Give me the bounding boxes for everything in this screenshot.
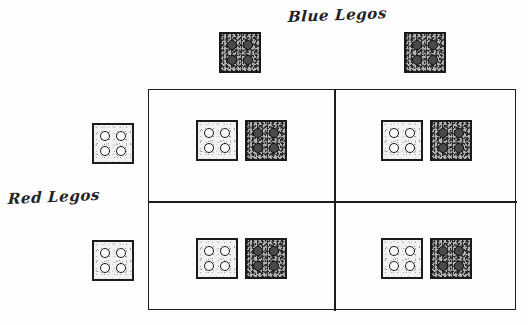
lego-stud xyxy=(438,128,448,138)
red-lego-brick xyxy=(92,123,134,164)
lego-stud xyxy=(116,263,126,273)
lego-stud xyxy=(100,146,110,156)
lego-stud xyxy=(204,246,214,256)
lego-stud xyxy=(243,40,253,50)
lego-stud xyxy=(227,40,237,50)
lego-stud xyxy=(405,261,415,271)
red-lego-brick xyxy=(381,120,423,161)
grid-cell-row1-col1 xyxy=(196,120,287,161)
lego-stud xyxy=(220,143,230,153)
lego-stud xyxy=(389,246,399,256)
lego-stud xyxy=(227,55,237,65)
red-lego-brick xyxy=(196,238,238,279)
lego-stud xyxy=(412,55,422,65)
lego-stud xyxy=(454,246,464,256)
blue-lego-brick xyxy=(245,238,287,279)
lego-stud xyxy=(454,143,464,153)
red-lego-brick xyxy=(196,120,238,161)
grid-cell-row2-col1 xyxy=(196,238,287,279)
lego-stud xyxy=(116,131,126,141)
blue-lego-brick xyxy=(430,238,472,279)
lego-stud xyxy=(220,261,230,271)
blue-lego-brick xyxy=(219,32,261,73)
lego-stud xyxy=(269,128,279,138)
lego-stud xyxy=(243,55,253,65)
lego-stud xyxy=(100,248,110,258)
lego-stud xyxy=(204,143,214,153)
blue-lego-brick xyxy=(245,120,287,161)
grid-horizontal-divider xyxy=(149,201,517,203)
lego-stud xyxy=(220,128,230,138)
blue-lego-brick xyxy=(404,32,446,73)
lego-stud xyxy=(269,261,279,271)
lego-stud xyxy=(389,128,399,138)
lego-stud xyxy=(253,128,263,138)
lego-stud xyxy=(100,263,110,273)
lego-stud xyxy=(428,40,438,50)
red-lego-brick xyxy=(92,240,134,281)
blue-lego-brick xyxy=(430,120,472,161)
lego-stud xyxy=(438,143,448,153)
lego-stud xyxy=(389,143,399,153)
grid-cell-row1-col2 xyxy=(381,120,472,161)
lego-stud xyxy=(405,246,415,256)
lego-stud xyxy=(100,131,110,141)
lego-stud xyxy=(405,143,415,153)
red-lego-brick xyxy=(381,238,423,279)
blue-legos-axis-label: Blue Legos xyxy=(288,4,388,26)
lego-stud xyxy=(428,55,438,65)
lego-stud xyxy=(438,246,448,256)
lego-stud xyxy=(116,146,126,156)
lego-stud xyxy=(269,143,279,153)
lego-stud xyxy=(405,128,415,138)
lego-stud xyxy=(220,246,230,256)
lego-stud xyxy=(438,261,448,271)
lego-stud xyxy=(253,261,263,271)
lego-stud xyxy=(204,261,214,271)
red-legos-axis-label: Red Legos xyxy=(8,186,101,208)
lego-stud xyxy=(116,248,126,258)
lego-stud xyxy=(454,261,464,271)
lego-stud xyxy=(253,143,263,153)
diagram-canvas: Blue Legos Red Legos xyxy=(0,0,528,325)
lego-stud xyxy=(269,246,279,256)
lego-stud xyxy=(412,40,422,50)
lego-stud xyxy=(253,246,263,256)
lego-stud xyxy=(454,128,464,138)
lego-stud xyxy=(204,128,214,138)
grid-cell-row2-col2 xyxy=(381,238,472,279)
lego-stud xyxy=(389,261,399,271)
